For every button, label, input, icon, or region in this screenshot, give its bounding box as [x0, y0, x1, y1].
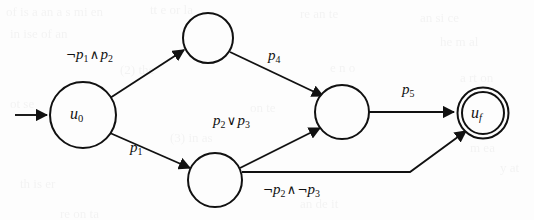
state-label-uf: uf: [471, 105, 482, 124]
state-label-u0: u0: [70, 106, 83, 125]
edge-label-u0-to-n1: ¬p1∧p2: [66, 47, 113, 64]
figure-canvas: of is a an a s mi enin ise of antt e or …: [0, 0, 534, 220]
state-n1[interactable]: [183, 13, 233, 63]
edge-label-n3-to-uf: p5: [402, 82, 414, 99]
state-n2[interactable]: [188, 153, 242, 207]
edge-label-u0-to-n2: p1: [130, 140, 142, 157]
transition-u0-to-n1: [110, 50, 184, 98]
transition-n2-to-n3: [240, 128, 320, 168]
state-n3[interactable]: [315, 85, 369, 139]
edge-label-n2-to-n3: p2∨p3: [213, 113, 250, 130]
edge-label-n2-to-uf: ¬p2∧¬p3: [263, 182, 320, 199]
edge-label-n1-to-n3: p4: [268, 48, 280, 65]
state-uf[interactable]: [462, 92, 504, 134]
transition-u0-to-n2: [110, 133, 190, 168]
